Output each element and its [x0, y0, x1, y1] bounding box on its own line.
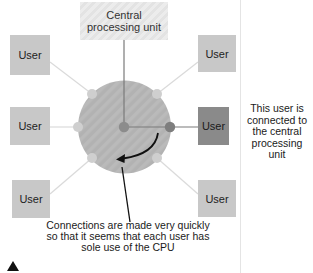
- user-label: User: [205, 193, 228, 205]
- user-label: User: [18, 120, 41, 132]
- user-box-top-right: User: [198, 35, 236, 72]
- bottom-caption: Connections are made very quickly so tha…: [45, 220, 211, 254]
- user-label: User: [202, 120, 225, 132]
- user-box-bottom-right: User: [198, 180, 236, 217]
- user-label: User: [18, 49, 41, 61]
- center-dot: [119, 122, 129, 132]
- user-label: User: [205, 48, 228, 60]
- time-sharing-diagram: Central processing unit User User User U…: [0, 0, 313, 273]
- user-box-middle-right-active: User: [198, 107, 229, 145]
- user-box-middle-left: User: [10, 107, 50, 145]
- caption-pointer-line: [122, 167, 130, 222]
- cpu-box: Central processing unit: [80, 2, 168, 40]
- side-note: This user is connected to the central pr…: [242, 103, 312, 161]
- user-box-top-left: User: [10, 35, 50, 75]
- column-divider: [240, 0, 241, 273]
- cpu-label: Central processing unit: [84, 9, 164, 33]
- active-rim-dot: [165, 122, 175, 132]
- triangle-marker-icon: [7, 261, 19, 271]
- user-label: User: [19, 193, 42, 205]
- user-box-bottom-left: User: [12, 180, 50, 218]
